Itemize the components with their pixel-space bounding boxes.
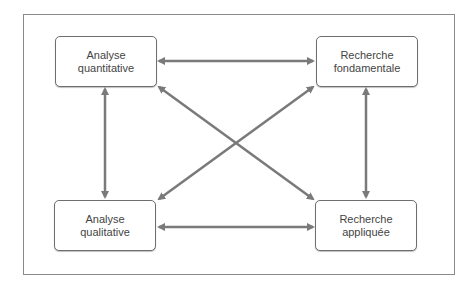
node-recherche-fondamentale: Recherchefondamentale (316, 36, 418, 87)
node-label-line1: Recherche (339, 213, 392, 226)
node-label-line2: quantitative (78, 62, 134, 75)
node-label-line1: Analyse (78, 49, 134, 62)
node-label-line1: Recherche (334, 49, 401, 62)
node-recherche-appliquee: Rechercheappliquée (315, 200, 417, 251)
node-analyse-quantitative: Analysequantitative (55, 36, 157, 87)
node-analyse-qualitative: Analysequalitative (54, 200, 156, 251)
node-label-line1: Analyse (80, 213, 130, 226)
node-label-line2: fondamentale (334, 62, 401, 75)
node-label-line2: appliquée (339, 226, 392, 239)
node-label-line2: qualitative (80, 226, 130, 239)
